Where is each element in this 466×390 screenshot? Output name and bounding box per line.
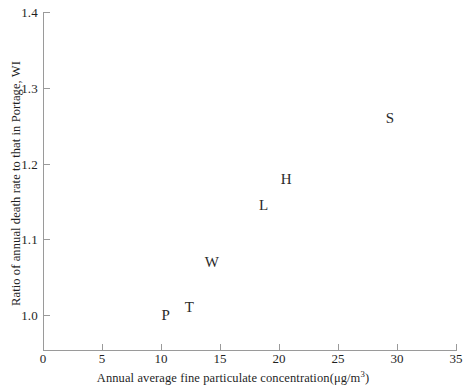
x-tick-label: 35 <box>436 352 466 366</box>
x-axis-title: Annual average fine particulate concentr… <box>0 371 466 386</box>
scatter-plot-figure: 1.01.11.21.31.4 05101520253035 PTWLHS An… <box>0 0 466 390</box>
x-tick-mark <box>397 344 398 351</box>
x-tick-label: 5 <box>82 352 122 366</box>
x-tick-mark <box>338 344 339 351</box>
y-axis-title: Ratio of annual death rate to that in Po… <box>9 29 24 339</box>
y-tick-mark <box>44 315 50 316</box>
data-point-h: H <box>281 171 292 186</box>
x-tick-mark <box>279 344 280 351</box>
y-tick-mark <box>44 88 50 89</box>
x-tick-label: 25 <box>318 352 358 366</box>
x-tick-label: 20 <box>259 352 299 366</box>
x-tick-label: 30 <box>377 352 417 366</box>
data-point-w: W <box>205 254 219 269</box>
x-tick-mark <box>456 344 457 351</box>
x-tick-mark <box>161 344 162 351</box>
data-point-t: T <box>185 300 194 315</box>
y-tick-mark <box>44 12 50 13</box>
x-tick-mark <box>43 344 44 351</box>
y-tick-label: 1.4 <box>0 6 38 19</box>
x-axis-title-tail: ) <box>365 371 369 385</box>
x-tick-mark <box>220 344 221 351</box>
x-tick-mark <box>102 344 103 351</box>
x-tick-label: 15 <box>200 352 240 366</box>
y-tick-mark <box>44 239 50 240</box>
data-point-l: L <box>259 198 268 213</box>
x-axis-title-text: Annual average fine particulate concentr… <box>97 371 361 385</box>
x-tick-label: 0 <box>23 352 63 366</box>
data-point-p: P <box>162 308 170 323</box>
y-axis-line <box>43 12 44 351</box>
x-tick-label: 10 <box>141 352 181 366</box>
y-tick-mark <box>44 164 50 165</box>
data-point-s: S <box>386 111 394 126</box>
